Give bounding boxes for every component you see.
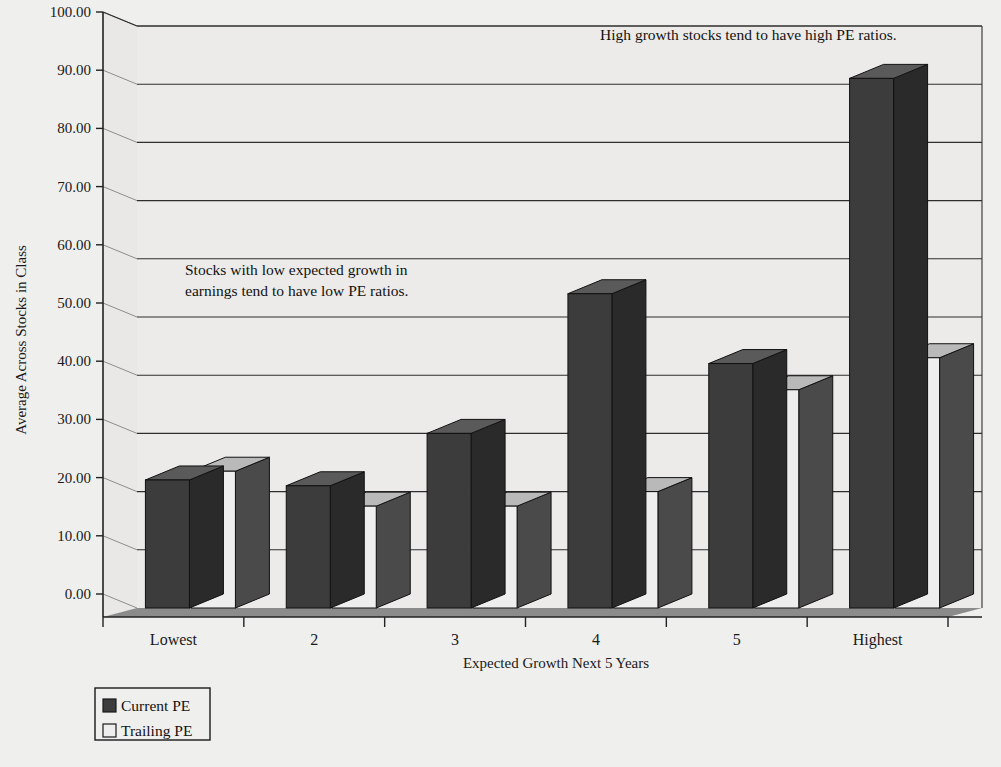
chart-legend[interactable]: Current PETrailing PE xyxy=(95,688,210,740)
y-tick-label: 50.00 xyxy=(57,295,91,311)
x-category-label: 5 xyxy=(733,631,741,648)
bar-side-face xyxy=(235,457,269,608)
y-tick-label: 40.00 xyxy=(57,353,91,369)
bar-side-face xyxy=(330,472,364,608)
y-tick-label: 80.00 xyxy=(57,120,91,136)
legend-swatch-trailing-pe xyxy=(103,724,116,737)
x-category-label: 4 xyxy=(592,631,600,648)
chart-floor xyxy=(103,608,982,617)
x-axis-title: Expected Growth Next 5 Years xyxy=(463,655,649,671)
bar-side-face xyxy=(189,466,223,608)
floor-top-face xyxy=(103,608,982,617)
bar-3d xyxy=(427,419,505,608)
bar-front-face xyxy=(709,364,753,608)
legend-swatch-current-pe xyxy=(103,699,116,712)
pe-ratio-bar-chart: 0.0010.0020.0030.0040.0050.0060.0070.008… xyxy=(0,0,1001,767)
bar-front-face xyxy=(568,294,612,608)
y-tick-label: 20.00 xyxy=(57,470,91,486)
x-category-label: Highest xyxy=(853,631,903,649)
x-axis-ticks: Lowest2345Highest xyxy=(103,617,948,649)
bar-3d xyxy=(286,472,364,608)
bar-3d xyxy=(850,64,928,608)
bar-side-face xyxy=(894,64,928,608)
bar-front-face xyxy=(145,480,189,608)
legend-label[interactable]: Trailing PE xyxy=(121,722,192,739)
y-axis-title: Average Across Stocks in Class xyxy=(13,245,29,435)
bar-front-face xyxy=(850,78,894,608)
bar-3d xyxy=(568,280,646,608)
x-category-label: 2 xyxy=(310,631,318,648)
bar-side-face xyxy=(376,492,410,608)
legend-label[interactable]: Current PE xyxy=(121,697,190,714)
chart-annotation-high-growth-note: High growth stocks tend to have high PE … xyxy=(600,26,897,43)
bar-side-face xyxy=(658,478,692,608)
y-tick-label: 90.00 xyxy=(57,62,91,78)
chart-annotation-low-growth-note: earnings tend to have low PE ratios. xyxy=(185,282,408,299)
bar-3d xyxy=(709,350,787,608)
y-tick-label: 10.00 xyxy=(57,528,91,544)
bar-side-face xyxy=(799,376,833,608)
y-tick-label: 70.00 xyxy=(57,179,91,195)
bar-3d xyxy=(145,466,223,608)
y-tick-label: 60.00 xyxy=(57,237,91,253)
chart-annotation-low-growth-note: Stocks with low expected growth in xyxy=(185,261,408,278)
bar-side-face xyxy=(517,492,551,608)
bar-side-face xyxy=(940,344,974,608)
y-axis-ticks: 0.0010.0020.0030.0040.0050.0060.0070.008… xyxy=(50,4,103,602)
chart-canvas: 0.0010.0020.0030.0040.0050.0060.0070.008… xyxy=(0,0,1001,767)
x-category-label: 3 xyxy=(451,631,459,648)
y-tick-label: 0.00 xyxy=(65,586,91,602)
y-tick-label: 100.00 xyxy=(50,4,91,20)
bar-front-face xyxy=(427,433,471,608)
x-category-label: Lowest xyxy=(150,631,198,648)
bar-side-face xyxy=(612,280,646,608)
bar-side-face xyxy=(471,419,505,608)
y-tick-label: 30.00 xyxy=(57,411,91,427)
bar-side-face xyxy=(753,350,787,608)
bar-front-face xyxy=(286,486,330,608)
